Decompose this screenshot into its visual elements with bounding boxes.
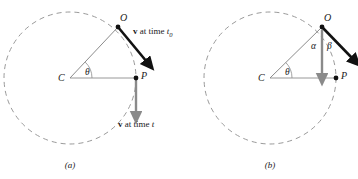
- point-label-o-a: O: [120, 13, 127, 23]
- vector-label-v-at-time-t: v at time t: [118, 120, 154, 129]
- point-label-c-b: C: [258, 73, 265, 83]
- vector-label-v-at-time-t0: v at time t0: [133, 27, 173, 38]
- radius-line-c-to-o-b: [270, 27, 322, 78]
- point-label-p-b: P: [341, 71, 347, 81]
- point-label-p-a: P: [141, 71, 147, 81]
- angle-label-alpha: α: [311, 42, 316, 52]
- radius-line-c-to-o: [70, 27, 118, 78]
- physics-figure-circular-motion: C P O θ v at time t0 v at time t (a) C P…: [0, 0, 358, 179]
- point-dot-o-a: [116, 25, 121, 30]
- caption-panel-b: (b): [240, 161, 300, 170]
- figure-canvas: [0, 0, 358, 179]
- panel-b-graphics: [204, 12, 353, 144]
- caption-panel-a: (a): [40, 161, 100, 170]
- point-dot-p-b: [334, 76, 339, 81]
- angle-label-theta-b: θ: [285, 68, 290, 78]
- point-label-c-a: C: [58, 73, 65, 83]
- point-label-o-b: O: [324, 13, 331, 23]
- point-dot-p-a: [134, 76, 139, 81]
- angle-label-beta: β: [327, 42, 332, 52]
- point-dot-o-b: [320, 25, 325, 30]
- angle-label-theta-a: θ: [85, 68, 90, 78]
